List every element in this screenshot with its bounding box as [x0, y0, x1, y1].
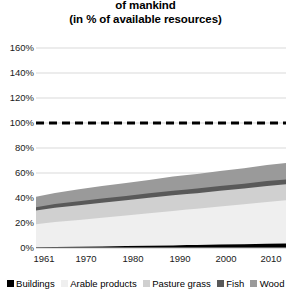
legend-label-wood: Wood — [260, 278, 285, 289]
legend-label-arable-products: Arable products — [70, 278, 137, 289]
legend-swatch-pasture-grass-icon — [143, 280, 150, 287]
legend-label-buildings: Buildings — [16, 278, 55, 289]
plot-svg — [36, 44, 286, 252]
x-tick-1980: 1980 — [122, 253, 143, 264]
legend-label-pasture-grass: Pasture grass — [152, 278, 211, 289]
y-tick-60: 60% — [0, 168, 34, 178]
y-axis-labels: 160% 140% 120% 100% 80% 60% 40% 20% 0% — [0, 0, 34, 294]
legend-item-wood[interactable]: Wood — [250, 278, 284, 289]
legend-item-arable-products[interactable]: Arable products — [61, 278, 137, 289]
legend-swatch-wood-icon — [250, 280, 257, 287]
x-tick-1970: 1970 — [75, 253, 96, 264]
x-tick-1961: 1961 — [33, 253, 54, 264]
chart-title: of mankind (in % of available resources) — [0, 0, 291, 26]
y-tick-0: 0% — [0, 243, 34, 253]
y-tick-120: 120% — [0, 93, 34, 103]
y-tick-100: 100% — [0, 118, 34, 128]
y-tick-80: 80% — [0, 143, 34, 153]
y-tick-160: 160% — [0, 43, 34, 53]
legend-item-pasture-grass[interactable]: Pasture grass — [143, 278, 211, 289]
legend-swatch-arable-products-icon — [61, 280, 68, 287]
chart-title-line-1: of mankind — [0, 0, 291, 12]
x-axis-labels: 1961 1970 1980 1990 2000 2010 — [0, 253, 291, 267]
chart-container: of mankind (in % of available resources)… — [0, 0, 291, 294]
legend-item-fish[interactable]: Fish — [217, 278, 244, 289]
chart-title-subtitle: (in % of available resources) — [0, 12, 291, 26]
chart-legend: Buildings Arable products Pasture grass … — [0, 275, 291, 291]
legend-swatch-buildings-icon — [7, 280, 14, 287]
legend-swatch-fish-icon — [217, 280, 224, 287]
x-tick-1990: 1990 — [169, 253, 190, 264]
y-tick-40: 40% — [0, 193, 34, 203]
x-tick-2000: 2000 — [215, 253, 236, 264]
plot-area — [36, 44, 286, 252]
x-tick-2010: 2010 — [260, 253, 281, 264]
legend-item-buildings[interactable]: Buildings — [7, 278, 55, 289]
legend-label-fish: Fish — [226, 278, 244, 289]
y-tick-20: 20% — [0, 218, 34, 228]
y-tick-140: 140% — [0, 68, 34, 78]
